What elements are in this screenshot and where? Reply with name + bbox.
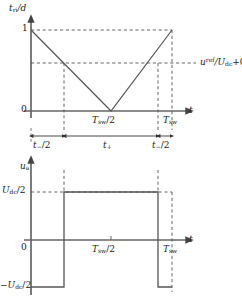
interval-label-tminus-half-left: t−/2: [33, 141, 50, 150]
top-plot-axes: [24, 22, 186, 118]
bottom-x-tick-tsw-half: Tsw/2: [92, 245, 115, 254]
interval-dimension-arrows: [31, 128, 170, 142]
top-x-tick-tsw-half: Tsw/2: [92, 116, 115, 125]
bottom-plot-axes: [24, 163, 186, 295]
reference-level-label: uref/Udc+0.5: [200, 57, 242, 67]
interval-label-tplus: t+: [103, 141, 112, 150]
top-y-tick-1: 1: [22, 24, 28, 33]
bottom-x-axis-label: t: [189, 235, 193, 244]
bottom-y-tick-negative: −Udc/2: [0, 281, 31, 290]
top-y-axis-label: tri/d: [9, 4, 26, 13]
top-x-axis-label: t: [189, 106, 193, 115]
bottom-y-axis-label: ua: [20, 162, 29, 171]
interval-label-tminus-half-right: t−/2: [152, 141, 169, 150]
bottom-x-tick-tsw: Tsw: [163, 245, 177, 254]
carrier-waveform: [31, 30, 172, 111]
bottom-y-tick-positive: Udc/2: [2, 186, 26, 195]
top-y-tick-0: 0: [21, 105, 27, 114]
top-x-tick-tsw: Tsw: [163, 116, 177, 125]
bottom-y-tick-zero: 0: [21, 243, 27, 252]
bottom-plot-gridlines: [31, 170, 172, 292]
figure-root: tri/d 1 0 t uref/Udc+0.5 Tsw/2 Tsw t−/2 …: [0, 0, 242, 300]
